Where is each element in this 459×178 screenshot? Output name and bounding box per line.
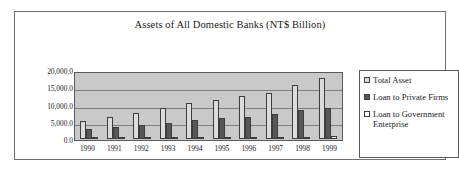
bar (225, 137, 231, 139)
bar-group (80, 74, 98, 139)
bar (325, 108, 331, 139)
y-axis: 20,000.015,000.010,000.05,000.00.0 (29, 67, 73, 147)
chart-figure-frame: Assets of All Domestic Banks (NT$ Billio… (14, 11, 446, 160)
x-axis: 1990199119921993199419951996199719981999 (74, 144, 343, 153)
bar (278, 137, 284, 139)
bar (245, 117, 251, 139)
x-tick-label: 1996 (236, 144, 262, 153)
legend-label: Loan to Private Firms (373, 92, 448, 102)
x-tick-label: 1997 (263, 144, 289, 153)
bar (331, 136, 337, 139)
chart-legend: Total AssetLoan to Private FirmsLoan to … (359, 70, 459, 158)
bar (304, 137, 310, 139)
y-tick-label: 10,000.0 (29, 103, 73, 111)
bar-group (319, 74, 337, 139)
x-tick-label: 1990 (74, 144, 100, 153)
legend-swatch-icon (364, 77, 370, 83)
y-tick-label: 5,000.0 (29, 120, 73, 128)
bar-group (186, 74, 204, 139)
bar (219, 118, 225, 139)
bar-group (292, 74, 310, 139)
y-tick-label: 20,000.0 (29, 68, 73, 76)
bar (119, 137, 125, 139)
bar (272, 114, 278, 139)
plot-area (74, 72, 343, 141)
bar (251, 137, 257, 139)
bar-group (160, 74, 178, 139)
legend-swatch-icon (364, 94, 370, 100)
plot-region (74, 72, 343, 141)
bar (145, 137, 151, 139)
bar (198, 137, 204, 139)
legend-entry: Loan to Government Enterprise (364, 109, 455, 129)
x-tick-label: 1995 (209, 144, 235, 153)
x-tick-label: 1993 (155, 144, 181, 153)
chart-title: Assets of All Domestic Banks (NT$ Billio… (15, 19, 445, 30)
bar-group (213, 74, 231, 139)
x-tick-label: 1994 (182, 144, 208, 153)
y-tick-label: 15,000.0 (29, 85, 73, 93)
bar-group (266, 74, 284, 139)
x-tick-label: 1992 (128, 144, 154, 153)
bar (92, 137, 98, 139)
x-tick-label: 1991 (101, 144, 127, 153)
x-tick-label: 1999 (316, 144, 342, 153)
bar-group (107, 74, 125, 139)
bar-group (239, 74, 257, 139)
bar-group (133, 74, 151, 139)
legend-entry: Total Asset (364, 75, 455, 85)
bars-layer (76, 74, 341, 139)
x-tick-label: 1998 (290, 144, 316, 153)
legend-entry: Loan to Private Firms (364, 92, 455, 102)
bar (298, 110, 304, 139)
legend-swatch-icon (364, 111, 370, 117)
legend-label: Total Asset (373, 75, 411, 85)
bar (172, 137, 178, 139)
legend-label: Loan to Government Enterprise (373, 109, 455, 129)
y-tick-label: 0.0 (29, 137, 73, 145)
